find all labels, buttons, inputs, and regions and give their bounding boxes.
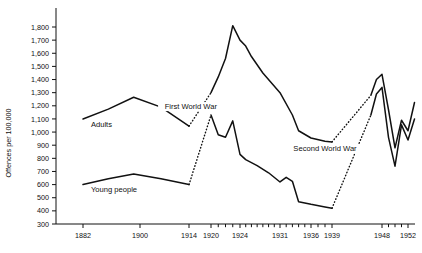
- x-tick-label: 1920: [203, 231, 219, 240]
- y-tick-label: 1,600: [31, 49, 49, 58]
- offences-line-chart: 3004005006007008009001,0001,1001,2001,30…: [0, 0, 422, 253]
- x-tick-label: 1936: [303, 231, 319, 240]
- x-axis: 1882190019141920192419311936193919481952: [56, 224, 416, 240]
- series-line-young-people: [211, 115, 332, 208]
- x-tick-label: 1948: [374, 231, 390, 240]
- series-label-young-people: Young people: [91, 185, 137, 194]
- y-tick-label: 1,400: [31, 75, 49, 84]
- x-tick-label: 1882: [75, 231, 91, 240]
- first-world-war-annotation: First World War: [165, 102, 218, 111]
- y-tick-label: 300: [37, 220, 49, 229]
- y-tick-label: 600: [37, 180, 49, 189]
- x-tick-label: 1914: [181, 231, 197, 240]
- y-tick-label: 1,000: [31, 128, 49, 137]
- y-tick-label: 900: [37, 141, 49, 150]
- x-tick-label: 1931: [272, 231, 288, 240]
- series-labels: AdultsYoung people: [91, 120, 137, 193]
- x-tick-label: 1939: [324, 231, 340, 240]
- y-tick-label: 800: [37, 154, 49, 163]
- war-gap-line: [189, 115, 211, 185]
- y-tick-label: 1,700: [31, 36, 49, 45]
- series-line-young-people: [371, 87, 415, 166]
- series-line-adults: [211, 26, 332, 142]
- war-gap-line: [332, 95, 371, 142]
- war-gap-line: [332, 115, 371, 208]
- series-line-adults: [371, 74, 415, 148]
- y-tick-label: 500: [37, 193, 49, 202]
- y-tick-label: 1,800: [31, 23, 49, 32]
- series-lines: [83, 26, 415, 209]
- x-tick-label: 1924: [232, 231, 248, 240]
- y-tick-label: 400: [37, 206, 49, 215]
- x-tick-label: 1952: [400, 231, 416, 240]
- series-line-young-people: [83, 174, 189, 185]
- second-world-war-annotation: Second World War: [293, 144, 357, 153]
- y-axis: 3004005006007008009001,0001,1001,2001,30…: [31, 8, 56, 229]
- y-tick-label: 700: [37, 167, 49, 176]
- y-tick-label: 1,100: [31, 115, 49, 124]
- y-tick-label: 1,500: [31, 62, 49, 71]
- y-tick-label: 1,300: [31, 88, 49, 97]
- x-tick-label: 1900: [132, 231, 148, 240]
- y-axis-title: Offences per 100,000: [4, 109, 13, 178]
- annotations: First World WarSecond World War: [158, 102, 360, 153]
- chart-canvas: 3004005006007008009001,0001,1001,2001,30…: [0, 0, 422, 253]
- series-label-adults: Adults: [91, 120, 112, 129]
- y-tick-label: 1,200: [31, 101, 49, 110]
